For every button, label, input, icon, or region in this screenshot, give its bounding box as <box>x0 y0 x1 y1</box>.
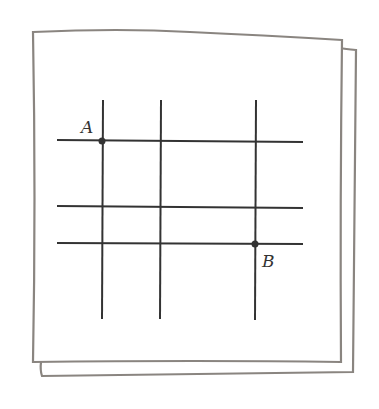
paper-diagram: A B <box>0 0 379 409</box>
point-a-label: A <box>79 117 93 137</box>
point-b-label: B <box>261 251 275 271</box>
vertical-line-1 <box>102 100 103 319</box>
vertical-line-3 <box>255 100 256 320</box>
point-a-dot <box>99 138 106 145</box>
front-sheet <box>33 30 342 362</box>
point-b-dot <box>252 241 259 248</box>
horizontal-line-3 <box>57 243 303 244</box>
vertical-line-2 <box>160 100 161 319</box>
